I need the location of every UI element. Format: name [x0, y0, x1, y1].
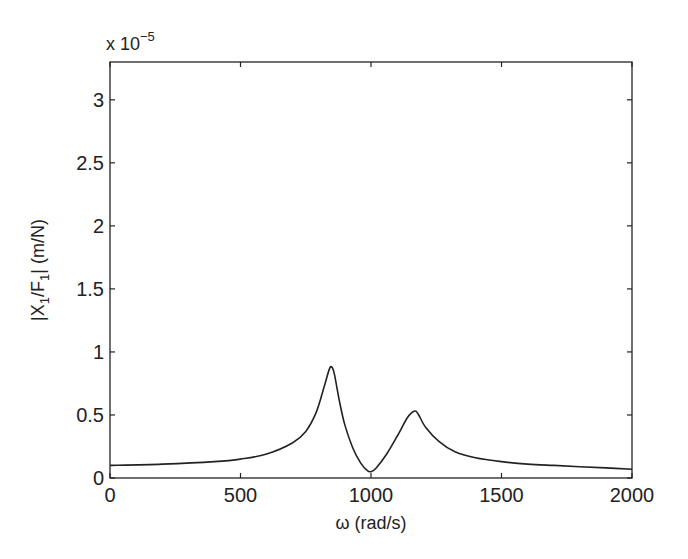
y-tick-label: 0.5 [76, 404, 104, 426]
y-axis-ticks: 00.511.522.53 [76, 89, 632, 489]
series-line [110, 367, 632, 472]
y-tick-label: 0 [93, 467, 104, 489]
y-tick-label: 1 [93, 341, 104, 363]
plot-area-border [110, 62, 632, 478]
axes-frame [110, 62, 632, 478]
y-tick-label: 2 [93, 215, 104, 237]
y-tick-label: 1.5 [76, 278, 104, 300]
x-axis-label: ω (rad/s) [335, 513, 406, 533]
x-tick-label: 2000 [610, 484, 655, 506]
x-axis-ticks: 0500100015002000 [104, 62, 654, 506]
frequency-response-chart: 00.511.522.53 0500100015002000 x 10−5 ω … [0, 0, 688, 559]
y-tick-label: 2.5 [76, 152, 104, 174]
y-tick-label: 3 [93, 89, 104, 111]
x-tick-label: 500 [224, 484, 257, 506]
y-exponent-label: x 10−5 [106, 29, 155, 54]
x-tick-label: 1500 [479, 484, 524, 506]
y-axis-label: |X1/F1| (m/N) [28, 219, 52, 321]
x-tick-label: 1000 [349, 484, 394, 506]
x-tick-label: 0 [104, 484, 115, 506]
